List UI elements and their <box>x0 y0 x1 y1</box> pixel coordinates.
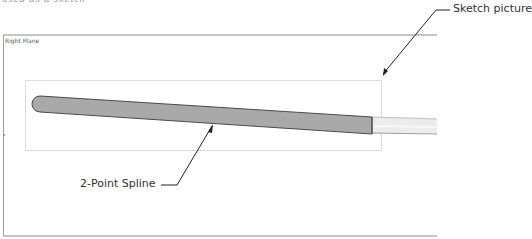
plane-label: Right Plane <box>5 37 39 44</box>
arrowhead-icon <box>208 124 213 133</box>
origin-marker <box>3 134 5 136</box>
rod-extension <box>372 117 437 133</box>
spline-callout: 2-Point Spline <box>80 177 156 190</box>
sketch-picture-leader <box>383 10 450 74</box>
spline-leader <box>161 126 212 185</box>
spline-region[interactable] <box>32 96 372 134</box>
sketch-picture-callout: Sketch picture <box>453 2 532 15</box>
